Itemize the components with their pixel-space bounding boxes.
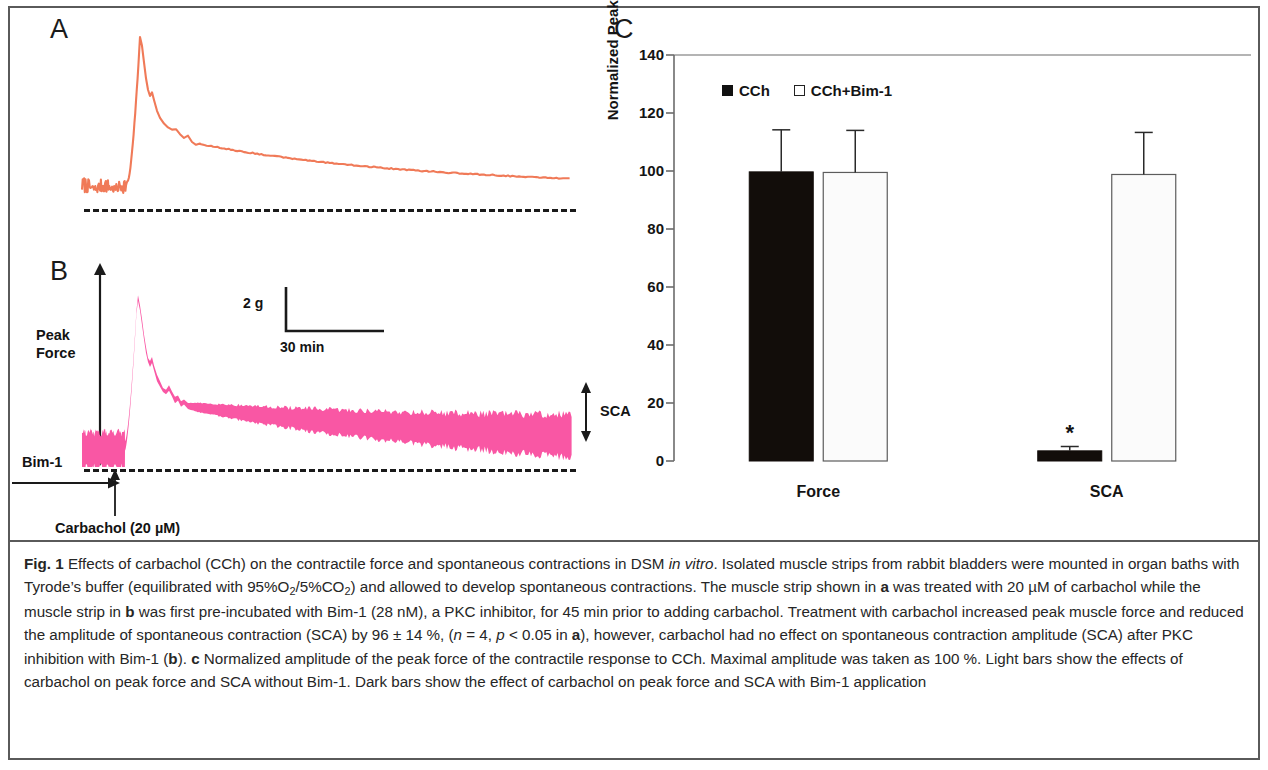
panel-a-baseline [84, 209, 576, 212]
legend-label-cch: CCh [739, 82, 770, 99]
chart-legend: CChCCh+Bim-1 [722, 82, 892, 99]
sca-arrow-icon [575, 382, 597, 442]
border-rule-bottom [8, 758, 1260, 760]
legend-swatch-cch-bim-1 [794, 85, 805, 96]
significance-marker: * [1065, 420, 1074, 445]
panel-b-baseline [84, 469, 576, 472]
chart-plot-area: * [596, 14, 1256, 526]
bar-force-cch-bim1 [823, 172, 887, 461]
bar-sca-cch [1038, 451, 1102, 461]
carbachol-label: Carbachol (20 µM) [55, 520, 180, 538]
panel-a-force-trace [80, 26, 580, 201]
border-rule-top [8, 6, 1260, 8]
caption-body: Effects of carbachol (CCh) on the contra… [24, 555, 1244, 690]
panel-a-letter: A [50, 16, 68, 43]
border-rule-left [8, 6, 10, 760]
scale-bar-icon [280, 285, 390, 345]
peak-force-label-line1: Peak [36, 327, 70, 343]
scale-bar-vertical-label: 2 g [243, 295, 263, 311]
bar-chart-panel-c: Normalized Peak Force (%) 02040608010012… [596, 14, 1256, 526]
peak-force-label-line2: Force [36, 345, 76, 361]
panel-b-letter: B [50, 258, 68, 285]
legend-swatch-cch [722, 85, 733, 96]
scale-bar-horizontal-label: 30 min [280, 339, 324, 355]
border-rule-right [1258, 6, 1260, 760]
border-rule-middle [8, 540, 1260, 542]
x-category-force: Force [748, 483, 888, 501]
legend-label-cch-bim-1: CCh+Bim-1 [811, 82, 892, 99]
peak-force-label: PeakForce [36, 327, 76, 362]
bim1-label: Bim-1 [22, 454, 62, 472]
carbachol-arrow-icon [105, 468, 125, 520]
x-category-sca: SCA [1037, 483, 1177, 501]
figure-page: A B PeakForce SCA 2 g 30 mi [0, 0, 1268, 770]
bar-sca-cch-bim1 [1112, 174, 1176, 461]
bar-force-cch [749, 172, 813, 461]
figure-caption: Fig. 1 Effects of carbachol (CCh) on the… [24, 552, 1246, 693]
caption-prefix: Fig. 1 [24, 555, 64, 572]
